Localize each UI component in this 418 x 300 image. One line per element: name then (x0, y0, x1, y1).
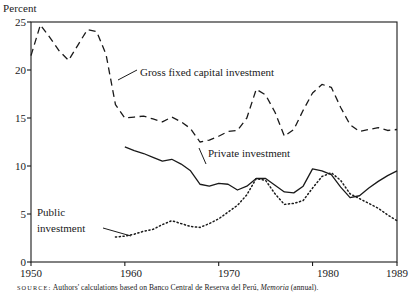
source-note: SOURCE: Authors' calculations based on B… (17, 283, 318, 293)
data-series-lines (31, 25, 397, 237)
series-path-0 (31, 25, 397, 142)
source-prefix: SOURCE: (17, 284, 51, 291)
annotation-leader-lines (103, 70, 206, 236)
figure-container: Percent 25 20 15 10 5 0 1950 1960 1970 1… (0, 0, 418, 300)
x-tick-1950: 1950 (11, 268, 51, 279)
leader-line-0 (118, 70, 137, 80)
x-tick-1970: 1970 (209, 268, 249, 279)
series-path-2 (115, 173, 397, 237)
leader-line-2 (103, 228, 131, 236)
source-italic: Memoria (261, 283, 289, 292)
x-tick-1960: 1960 (111, 268, 151, 279)
y-tick-5: 5 (4, 209, 26, 220)
y-axis-title: Percent (3, 2, 37, 15)
x-tick-1980: 1980 (308, 268, 348, 279)
y-tick-20: 20 (4, 65, 26, 76)
series-label-gross: Gross fixed capital investment (140, 66, 274, 79)
series-label-private: Private investment (208, 147, 290, 160)
plot-frame (31, 22, 397, 262)
x-tick-1989: 1989 (377, 268, 417, 279)
y-tick-25: 25 (4, 17, 26, 28)
source-suffix: (annual). (291, 283, 319, 292)
y-tick-10: 10 (4, 161, 26, 172)
leader-line-1 (199, 148, 206, 164)
series-label-public-line2: investment (37, 222, 85, 235)
y-tick-15: 15 (4, 113, 26, 124)
series-label-public-line1: Public (37, 206, 65, 219)
source-text: Authors' calculations based on Banco Cen… (53, 283, 259, 292)
